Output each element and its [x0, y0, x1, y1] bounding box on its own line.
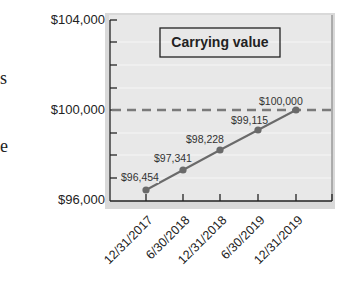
data-label: $97,341: [154, 152, 192, 164]
data-label: $99,115: [231, 114, 268, 126]
data-label: $100,000: [259, 95, 303, 107]
data-label: $96,454: [121, 171, 159, 183]
chart-title: Carrying value: [160, 28, 280, 57]
data-label: $98,228: [186, 133, 224, 145]
